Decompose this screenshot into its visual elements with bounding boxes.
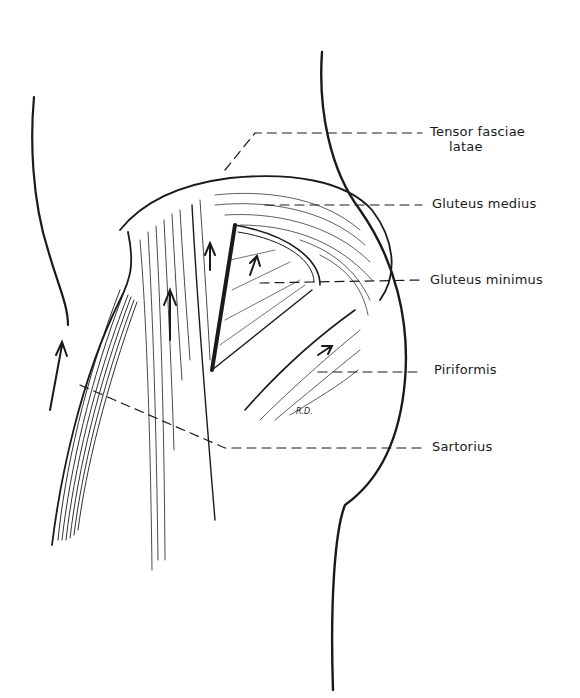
direction-arrows [50, 243, 332, 410]
leader-lines [80, 133, 422, 448]
tensor-fasciae-latae-muscle [140, 200, 215, 570]
gluteus-medius-muscle [215, 193, 372, 315]
back-outline [32, 97, 68, 325]
label-tensor-line2: latae [430, 139, 525, 154]
artist-signature: R.D. [296, 407, 313, 416]
gluteus-minimus-muscle [212, 225, 320, 370]
label-gluteus-medius: Gluteus medius [432, 196, 537, 211]
piriformis-muscle [245, 310, 360, 420]
sartorius-muscle [58, 290, 137, 540]
label-piriformis: Piriformis [434, 362, 497, 377]
label-sartorius: Sartorius [432, 439, 492, 454]
leg-front-outline [52, 232, 131, 545]
label-tensor-line1: Tensor fasciae [430, 124, 525, 139]
label-gluteus-minimus: Gluteus minimus [430, 272, 543, 287]
hip-muscle-illustration: R.D. [0, 0, 580, 698]
label-tensor-fasciae-latae: Tensor fasciae latae [430, 124, 525, 154]
